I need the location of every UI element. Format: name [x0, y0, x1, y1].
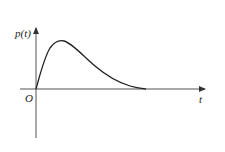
y-axis-label: p(t) — [14, 27, 31, 40]
pulse-curve — [36, 41, 146, 89]
x-axis-label: t — [199, 93, 203, 105]
graph-canvas: p(t) O t — [0, 0, 225, 152]
origin-label: O — [25, 92, 33, 104]
